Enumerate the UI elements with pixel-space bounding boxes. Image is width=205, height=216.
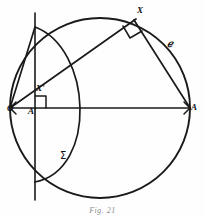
figure-caption: Fig. 21	[0, 206, 205, 216]
figure-container: O A' X' A X ℯ Σ Fig. 21	[0, 0, 205, 216]
label-point-A: A	[191, 103, 197, 112]
label-curve-sigma: Σ	[60, 151, 66, 161]
chord-X-to-A	[134, 20, 190, 108]
label-circle-E: ℯ	[167, 39, 173, 49]
label-point-X-prime: X'	[36, 84, 45, 93]
ray-O-to-X	[10, 19, 136, 108]
label-point-A-prime: A'	[28, 107, 37, 116]
label-point-X: X	[137, 6, 143, 15]
segment-O-to-upper-intersection	[10, 27, 35, 108]
sigma-arc	[35, 27, 80, 182]
label-point-O: O	[7, 104, 14, 113]
